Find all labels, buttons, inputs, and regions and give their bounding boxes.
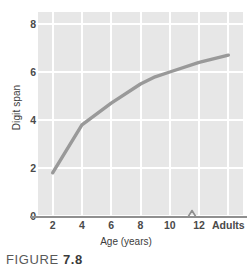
x-axis-tick-label: 12 [193,219,205,231]
x-axis-title: Age (years) [0,236,252,247]
data-series-layer [38,12,243,216]
plot-area [38,12,243,216]
x-axis-tick-label: 8 [138,219,144,231]
x-axis-tick-label: 4 [79,219,85,231]
x-axis-tick-label: 10 [164,219,176,231]
y-axis-tick-label: 2 [20,163,36,174]
x-axis-line [30,216,247,218]
figure-caption: FIGURE 7.8 [6,252,83,264]
axis-break-zigzag-icon [182,209,204,219]
figure-caption-label: FIGURE [6,252,59,264]
y-axis-tick-label: 8 [20,19,36,30]
x-axis-tick-label: Adults [212,219,245,231]
y-axis-tick-label: 6 [20,67,36,78]
x-axis-tick-label: 6 [108,219,114,231]
x-axis-tick-label: 2 [50,219,56,231]
line-series-digit-span [53,55,229,173]
x-axis-tick-labels: 24681012Adults [0,219,252,233]
figure-container: Digit span 02468 24681012Adults Age (yea… [0,0,252,264]
y-axis-tick-label: 4 [20,115,36,126]
figure-caption-number: 7.8 [63,252,83,264]
